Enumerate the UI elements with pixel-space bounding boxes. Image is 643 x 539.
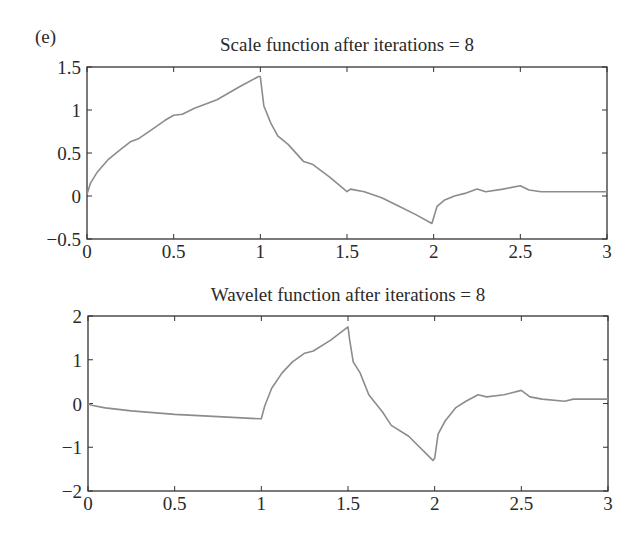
x-tick-label: 2.5 [509, 493, 533, 514]
x-tick-label: 2 [430, 493, 440, 514]
y-tick-label: −1 [62, 437, 82, 458]
y-tick-label: −2 [62, 481, 82, 502]
wavelet-function-plot: 00.511.522.53−2−1012 [62, 306, 613, 514]
y-tick-label: 0 [73, 394, 83, 415]
x-tick-label: 1 [257, 493, 267, 514]
y-tick-label: 0.5 [57, 143, 81, 164]
x-tick-label: 0.5 [163, 493, 187, 514]
axes-frame [87, 67, 607, 239]
figure-canvas: 00.511.522.53−0.500.511.5 00.511.522.53−… [0, 0, 643, 539]
y-tick-label: 2 [73, 306, 83, 327]
x-tick-label: 3 [603, 493, 613, 514]
y-tick-label: 1 [73, 350, 83, 371]
x-tick-label: 2.5 [508, 241, 532, 262]
data-line [87, 77, 607, 224]
y-tick-label: 0 [72, 186, 82, 207]
x-tick-label: 1.5 [336, 493, 360, 514]
x-tick-label: 3 [602, 241, 612, 262]
x-tick-label: 1.5 [335, 241, 359, 262]
x-tick-label: 0 [82, 241, 92, 262]
data-line [88, 327, 608, 461]
y-tick-label: 1.5 [57, 57, 81, 78]
x-tick-label: 0.5 [162, 241, 186, 262]
x-tick-label: 2 [429, 241, 439, 262]
y-tick-label: 1 [72, 100, 82, 121]
y-tick-label: −0.5 [47, 229, 81, 250]
x-tick-label: 1 [256, 241, 266, 262]
x-tick-label: 0 [83, 493, 93, 514]
axes-frame [88, 316, 608, 491]
scale-function-plot: 00.511.522.53−0.500.511.5 [47, 57, 612, 262]
